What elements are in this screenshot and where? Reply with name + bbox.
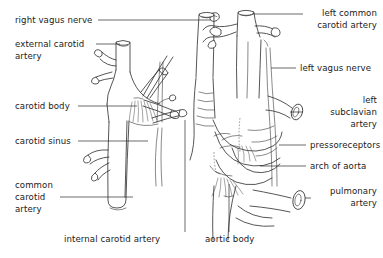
label-left-common-carotid-artery-line1: left common — [287, 8, 377, 19]
label-internal-carotid-artery: internal carotid artery — [64, 234, 160, 245]
carotid-sinus-nerve-drawing — [143, 56, 187, 123]
pressoreceptors-drawing — [214, 118, 256, 164]
label-carotid-sinus: carotid sinus — [15, 136, 71, 147]
internal-carotid-artery-drawing — [141, 68, 168, 98]
right-vagus-nerve-drawing — [155, 62, 163, 186]
label-left-subclavian-artery-line1: left — [297, 95, 377, 106]
external-carotid-artery-drawing — [116, 41, 130, 73]
superior-vena-cava-drawing — [190, 78, 215, 160]
label-common-carotid-artery-line1: common — [15, 180, 53, 191]
label-common-carotid-artery-line2: carotid — [15, 192, 45, 203]
label-common-carotid-artery-line3: artery — [15, 204, 42, 215]
left-common-carotid-artery-drawing — [237, 10, 260, 37]
label-aortic-body: aortic body — [205, 234, 254, 245]
anatomy-diagram: right vagus nerve external carotid arter… — [0, 0, 383, 258]
left-carotid-descending-drawing — [237, 36, 262, 98]
label-pressoreceptors: pressoreceptors — [310, 140, 380, 151]
pulmonary-artery-drawing — [236, 190, 307, 227]
label-left-vagus-nerve: left vagus nerve — [300, 63, 371, 74]
label-left-common-carotid-artery-line2: carotid artery — [287, 20, 377, 31]
label-external-carotid-artery-line1: external carotid — [15, 39, 84, 50]
leader-lines — [60, 14, 311, 232]
external-carotid-branches — [92, 50, 117, 84]
label-arch-of-aorta: arch of aorta — [310, 161, 366, 172]
common-carotid-branch-stubs — [83, 150, 110, 181]
left-vagus-nerve-drawing — [264, 40, 277, 186]
label-left-subclavian-artery-line2: subclavian — [297, 107, 377, 118]
label-pulmonary-artery-line2: artery — [297, 198, 377, 209]
label-right-vagus-nerve: right vagus nerve — [15, 15, 93, 26]
label-pulmonary-artery-line1: pulmonary — [297, 186, 377, 197]
aortic-body-drawing — [210, 152, 243, 197]
great-vessel-branches-drawing — [203, 24, 280, 48]
descending-aorta-drawing — [213, 186, 236, 240]
label-carotid-body: carotid body — [15, 101, 70, 112]
label-external-carotid-artery-line2: artery — [15, 51, 42, 62]
label-left-subclavian-artery-line3: artery — [297, 119, 377, 130]
